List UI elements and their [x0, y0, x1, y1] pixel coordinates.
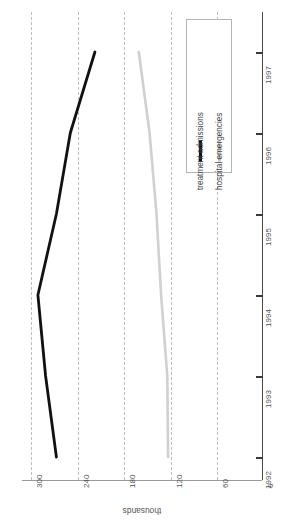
chart-container: Cocaine-related hospital emergencies and… — [0, 0, 284, 523]
legend[interactable]: treatment admissions hospital emergencie… — [186, 19, 232, 173]
series-layer — [0, 0, 284, 523]
legend-label-hospital-emergencies: hospital emergencies — [215, 82, 224, 190]
series-line-hospital-emergencies — [139, 52, 168, 457]
plot-area: 1997 1996 1995 1994 1993 1992 300 240 18… — [0, 0, 284, 523]
legend-label-treatment-admissions: treatment admissions — [196, 82, 205, 190]
series-line-treatment-admissions — [38, 52, 95, 457]
